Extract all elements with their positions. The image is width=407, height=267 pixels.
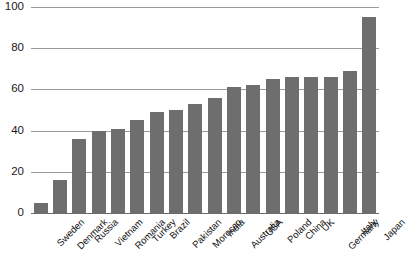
bar-turkey — [130, 120, 144, 213]
bar-sweden — [34, 203, 48, 213]
bar-usa — [246, 85, 260, 213]
bar-italy — [343, 71, 357, 213]
y-tick-label-100: 100 — [0, 1, 24, 13]
bar-australia — [227, 87, 241, 213]
bar-china — [285, 77, 299, 213]
bar-russia — [72, 139, 86, 213]
y-tick-label-60: 60 — [0, 84, 24, 96]
y-tick-label-40: 40 — [0, 125, 24, 137]
x-label-japan: Japan — [381, 217, 406, 242]
bar-japan — [362, 17, 376, 213]
bar-denmark — [53, 180, 67, 213]
bar-uk — [304, 77, 318, 213]
y-tick-label-80: 80 — [0, 42, 24, 54]
x-axis-category-labels: SwedenDenmarkRussiaVietnamRomaniaTurkeyB… — [31, 215, 379, 267]
bar-poland — [266, 79, 280, 213]
bars-group — [31, 7, 379, 213]
bar-morocco — [188, 104, 202, 213]
x-label-usa: USA — [263, 217, 284, 238]
bar-romania — [111, 129, 125, 213]
gridline-0 — [31, 213, 379, 214]
y-tick-label-0: 0 — [0, 207, 24, 219]
bar-vietnam — [92, 131, 106, 213]
x-label-india: India — [225, 217, 246, 238]
bar-india — [208, 98, 222, 213]
plot-area — [31, 7, 379, 213]
bar-brazil — [150, 112, 164, 213]
y-tick-label-20: 20 — [0, 166, 24, 178]
bar-pakistan — [169, 110, 183, 213]
bar-germany — [324, 77, 338, 213]
